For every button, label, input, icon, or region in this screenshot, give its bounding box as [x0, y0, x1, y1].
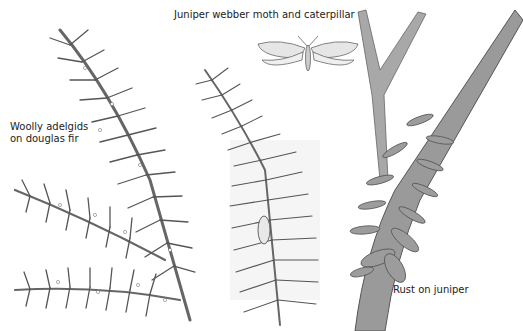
illustration-plate: Woolly adelgids on douglas fir Juniper w…	[0, 0, 523, 331]
rust-label: Rust on juniper	[393, 284, 469, 296]
adelgids-label: Woolly adelgids on douglas fir	[10, 121, 88, 145]
illustration-artwork	[0, 0, 523, 331]
adelgids-label-line1: Woolly adelgids	[10, 121, 88, 133]
adelgids-label-line2: on douglas fir	[10, 133, 88, 145]
juniper-webber-moth-illustration	[258, 36, 358, 71]
moth-label: Juniper webber moth and caterpillar	[174, 9, 355, 21]
juniper-rust-branch-illustration	[349, 10, 523, 331]
caterpillar-icon	[258, 216, 270, 244]
douglas-fir-branch-illustration	[15, 30, 195, 320]
juniper-sprig-caterpillar-illustration	[196, 68, 320, 325]
